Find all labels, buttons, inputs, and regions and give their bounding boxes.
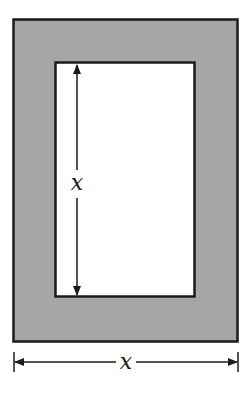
horizontal-dimension-label: x: [120, 349, 133, 374]
vertical-dimension-label: x: [71, 170, 84, 195]
frame-diagram: x x: [0, 0, 247, 393]
